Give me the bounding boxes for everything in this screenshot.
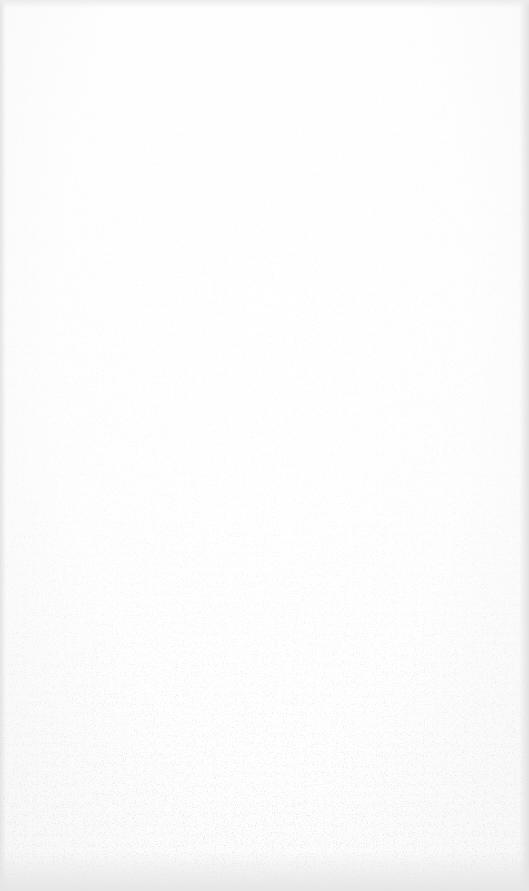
paper-speckle-texture: [0, 0, 529, 891]
scan-edge-left: [0, 0, 6, 891]
scan-edge-top: [0, 0, 529, 8]
scan-edge-bottom: [0, 851, 529, 891]
scan-edge-right: [519, 0, 529, 891]
blank-scanned-page: [0, 0, 529, 891]
